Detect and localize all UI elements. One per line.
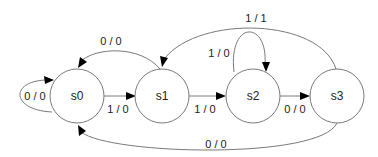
state-s3: s3 bbox=[310, 69, 364, 123]
edge-s3-s1 bbox=[165, 28, 336, 69]
edge-label-s0-s1: 1 / 0 bbox=[107, 103, 128, 115]
arrow-s0-s0 bbox=[44, 76, 54, 84]
state-label: s1 bbox=[156, 89, 169, 103]
arrow-s1-s0 bbox=[78, 57, 87, 68]
edge-label-s1-s2: 1 / 0 bbox=[194, 103, 215, 115]
edge-label-s0-s0: 0 / 0 bbox=[24, 90, 45, 102]
edge-label-s3-s0: 0 / 0 bbox=[205, 138, 226, 150]
state-diagram: s0 s1 s2 s3 0 / 0 1 / 0 0 / 0 1 / 0 1 / … bbox=[0, 0, 378, 157]
edge-label-s3-s1: 1 / 1 bbox=[245, 12, 266, 24]
state-s1: s1 bbox=[135, 69, 189, 123]
edge-label-s1-s0: 0 / 0 bbox=[100, 35, 121, 47]
arrow-s1-s2 bbox=[216, 92, 226, 100]
edge-label-s2-s2: 1 / 0 bbox=[208, 47, 229, 59]
edge-s2-s2 bbox=[233, 32, 265, 72]
state-s0: s0 bbox=[50, 69, 104, 123]
state-label: s0 bbox=[71, 89, 84, 103]
state-label: s3 bbox=[331, 89, 344, 103]
arrow-s3-s1 bbox=[160, 56, 168, 67]
edge-s1-s0 bbox=[80, 51, 160, 69]
edge-label-s2-s3: 0 / 0 bbox=[284, 103, 305, 115]
state-s2: s2 bbox=[226, 69, 280, 123]
state-label: s2 bbox=[247, 89, 260, 103]
arrow-s2-s3 bbox=[300, 92, 310, 100]
